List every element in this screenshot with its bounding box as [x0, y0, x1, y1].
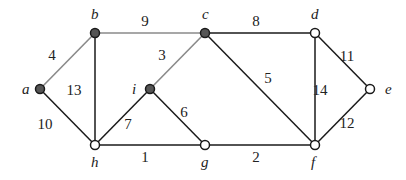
node-f	[311, 141, 320, 150]
node-label-f: f	[311, 154, 317, 170]
node-d	[311, 29, 320, 38]
node-c	[201, 29, 210, 38]
node-b	[91, 29, 100, 38]
edge-weight-b-c: 9	[141, 13, 149, 29]
node-g	[201, 141, 210, 150]
node-label-h: h	[91, 154, 99, 170]
node-label-c: c	[202, 6, 209, 22]
node-e	[366, 85, 375, 94]
edge-weight-a-b: 4	[48, 47, 56, 63]
edge-c-f	[205, 33, 315, 145]
node-a	[36, 85, 45, 94]
edge-weight-c-i: 3	[158, 47, 166, 63]
node-h	[91, 141, 100, 150]
edge-weight-i-g: 6	[180, 104, 188, 120]
edge-weight-i-h: 7	[124, 116, 132, 132]
edge-weight-c-d: 8	[252, 13, 260, 29]
edge-weight-g-f: 2	[252, 149, 260, 165]
node-i	[146, 85, 155, 94]
edge-i-g	[150, 89, 205, 145]
node-label-d: d	[311, 6, 319, 22]
edge-weight-b-h: 13	[67, 82, 82, 98]
edge-weight-a-h: 10	[38, 116, 53, 132]
edge-weight-d-f: 14	[313, 82, 329, 98]
edge-i-h	[95, 89, 150, 145]
edge-weight-h-g: 1	[141, 149, 149, 165]
edge-weight-f-e: 12	[340, 115, 355, 131]
node-label-g: g	[201, 154, 209, 170]
node-label-e: e	[385, 81, 392, 97]
node-label-a: a	[22, 81, 30, 97]
graph-diagram: 4931013761285141112 abcdefghi	[0, 0, 406, 180]
edge-weight-labels: 4931013761285141112	[38, 13, 355, 165]
node-label-b: b	[91, 6, 99, 22]
edge-weight-d-e: 11	[340, 48, 354, 64]
node-label-i: i	[132, 81, 136, 97]
edge-weight-c-f: 5	[264, 70, 272, 86]
